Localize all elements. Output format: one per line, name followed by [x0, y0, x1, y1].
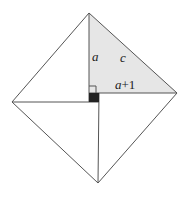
vertical-lower-line: [98, 93, 99, 183]
label-plus-one: +1: [122, 77, 136, 92]
diagram-canvas: a c a+1: [0, 0, 187, 200]
center-square: [89, 93, 99, 102]
label-a-plus-1: a+1: [115, 77, 135, 92]
label-c: c: [120, 50, 126, 65]
label-a: a: [92, 49, 99, 64]
